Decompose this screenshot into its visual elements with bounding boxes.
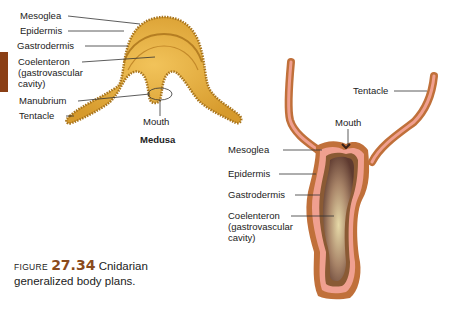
- figure-word: Figure: [14, 262, 48, 272]
- medusa-illustration: [66, 17, 241, 123]
- polyp-label-coelenteron-3: cavity): [228, 232, 255, 243]
- medusa-label-tentacle: Tentacle: [19, 110, 54, 121]
- caption-line1: Cnidarian: [99, 260, 148, 272]
- polyp-label-gastrodermis: Gastrodermis: [228, 189, 285, 200]
- figure-number: 27.34: [51, 257, 95, 273]
- medusa-label-gastrodermis: Gastrodermis: [17, 40, 74, 51]
- figure-caption: Figure 27.34 Cnidarian generalized body …: [14, 258, 148, 288]
- medusa-label-mesoglea: Mesoglea: [20, 10, 61, 21]
- polyp-label-tentacle: Tentacle: [353, 85, 388, 96]
- medusa-title: Medusa: [140, 134, 175, 145]
- caption-line2: generalized body plans.: [14, 274, 148, 288]
- medusa-label-mouth: Mouth: [143, 116, 169, 127]
- polyp-label-coelenteron: Coelenteron: [228, 210, 280, 221]
- polyp-label-mesoglea: Mesoglea: [228, 144, 269, 155]
- medusa-label-manubrium: Manubrium: [19, 95, 67, 106]
- medusa-label-coelenteron-3: cavity): [18, 78, 45, 89]
- medusa-label-epidermis: Epidermis: [20, 25, 62, 36]
- medusa-label-coelenteron-2: (gastrovascular: [18, 67, 83, 78]
- polyp-label-coelenteron-2: (gastrovascular: [228, 221, 293, 232]
- polyp-label-epidermis: Epidermis: [228, 168, 270, 179]
- polyp-illustration: [288, 62, 434, 299]
- polyp-label-mouth: Mouth: [335, 117, 361, 128]
- medusa-label-coelenteron: Coelenteron: [18, 56, 70, 67]
